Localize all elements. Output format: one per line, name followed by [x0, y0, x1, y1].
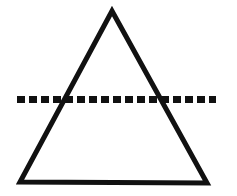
figure-svg [0, 0, 237, 196]
figure-canvas: Triangle bisected by a horizontal dashed… [0, 0, 237, 196]
